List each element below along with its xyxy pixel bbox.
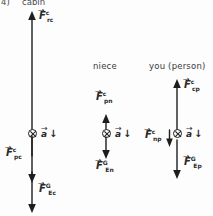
column-header-niece: niece <box>93 61 117 71</box>
vector-arrow-overbar: → <box>144 126 150 134</box>
vector-arrow-overbar: → <box>115 124 121 133</box>
force-arrow-person-cabin-up <box>171 78 185 136</box>
force-superscript: c <box>46 9 50 16</box>
vector-arrow-overbar: → <box>183 76 189 84</box>
force-superscript: G <box>46 182 51 189</box>
force-superscript: G <box>191 155 196 162</box>
force-subscript: Ec <box>48 189 56 196</box>
vector-arrow-overbar: → <box>41 124 47 133</box>
force-subscript: rc <box>47 16 54 23</box>
vector-arrow-overbar: → <box>38 7 44 15</box>
force-label-person-niece: →Fcnp <box>145 130 164 140</box>
free-body-diagram-figure: 4) cabin →Fcrc →a ↓ →Fcpc →FGEc niece <box>0 0 213 216</box>
force-label-cabin-rope: →Fcrc <box>39 11 56 21</box>
force-subscript: Ep <box>193 162 201 169</box>
force-label-cabin-earth: →FGEc <box>39 184 58 194</box>
force-superscript: c <box>103 90 107 97</box>
item-number-marker: 4) <box>1 0 10 7</box>
vector-arrow-overbar: → <box>95 157 101 165</box>
force-subscript: En <box>105 166 113 173</box>
force-label-cabin-person: →Fcpc <box>6 148 24 158</box>
force-superscript: c <box>191 78 195 85</box>
force-subscript: pc <box>14 153 22 160</box>
acceleration-label-cabin: →a ↓ <box>41 128 57 139</box>
acceleration-label-person: →a ↓ <box>186 128 202 139</box>
force-label-niece-person: →Fcpn <box>96 92 115 102</box>
vector-arrow-overbar: → <box>95 88 101 96</box>
force-label-person-cabin: →Fccp <box>184 80 202 90</box>
force-superscript: c <box>13 146 17 153</box>
column-header-person: you (person) <box>149 61 206 71</box>
acceleration-direction-arrow: ↓ <box>123 128 131 139</box>
force-label-niece-earth: →FGEn <box>96 161 116 171</box>
force-subscript: pn <box>104 97 113 104</box>
acceleration-direction-arrow: ↓ <box>49 128 57 139</box>
vector-arrow-overbar: → <box>183 153 189 161</box>
vector-arrow-overbar: → <box>38 180 44 188</box>
force-superscript: G <box>103 159 108 166</box>
center-of-mass-marker-person <box>173 129 182 138</box>
force-label-person-earth: →FGEp <box>184 157 204 167</box>
force-subscript: np <box>153 135 162 142</box>
force-arrow-niece-earth-down <box>100 137 114 161</box>
force-subscript: cp <box>192 85 200 92</box>
acceleration-label-niece: →a ↓ <box>115 128 131 139</box>
acceleration-direction-arrow: ↓ <box>194 128 202 139</box>
force-superscript: c <box>152 128 156 135</box>
vector-arrow-overbar: → <box>186 124 192 133</box>
vector-arrow-overbar: → <box>5 144 11 152</box>
